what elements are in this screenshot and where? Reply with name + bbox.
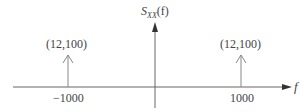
- tick-label-1000: 1000: [230, 92, 254, 104]
- f-axis-label: f: [294, 80, 298, 93]
- tick-label-neg-1000: −1000: [53, 92, 84, 104]
- impulse-right-annotation: (12,100): [220, 38, 261, 50]
- sxx-label-argument: (f): [157, 4, 169, 18]
- power-spectral-density-diagram: SXX(f) f (12,100) (12,100) −1000 1000: [0, 0, 305, 112]
- sxx-axis-arrowhead-icon: [152, 22, 158, 32]
- sxx-label-subscript: XX: [147, 11, 157, 20]
- f-axis-arrowhead-icon: [282, 84, 292, 90]
- impulse-left-annotation: (12,100): [46, 38, 87, 50]
- sxx-axis-label: SXX(f): [141, 5, 169, 20]
